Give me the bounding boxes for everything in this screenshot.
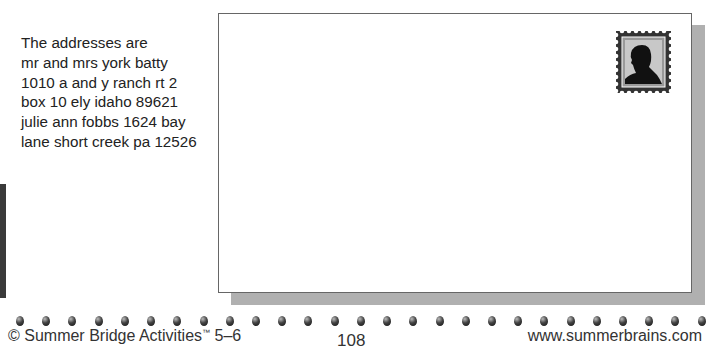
address-line: box 10 ely idaho 89621 [21,92,221,112]
dot [121,316,129,326]
dot [173,316,181,326]
address-instructions: The addresses are mr and mrs york batty … [21,33,221,152]
address-line: 1010 a and y ranch rt 2 [21,73,221,93]
dot [567,316,575,326]
dot [462,316,470,326]
grade-range: 5–6 [210,327,241,344]
address-line: lane short creek pa 12526 [21,132,221,152]
dot [383,316,391,326]
address-line: The addresses are [21,33,221,53]
dot [409,316,417,326]
dot [252,316,260,326]
dot [514,316,522,326]
dot [619,316,627,326]
dot [331,316,339,326]
dot [488,316,496,326]
dot [16,316,24,326]
dot [436,316,444,326]
dot [200,316,208,326]
footer-copyright: © Summer Bridge Activities™ 5–6 [8,327,241,345]
address-line: julie ann fobbs 1624 bay [21,112,221,132]
dot [147,316,155,326]
trademark-symbol: ™ [202,328,210,337]
address-line: mr and mrs york batty [21,53,221,73]
page-number: 108 [337,331,365,351]
dot [593,316,601,326]
page-footer: © Summer Bridge Activities™ 5–6 108 www.… [0,327,714,351]
postage-stamp-icon [612,27,675,97]
dot [540,316,548,326]
dot [698,316,706,326]
dot [645,316,653,326]
copyright-text: © Summer Bridge Activities [8,327,202,344]
dot [357,316,365,326]
dot [95,316,103,326]
website-link[interactable]: www.summerbrains.com [528,327,702,345]
dot [42,316,50,326]
dot [226,316,234,326]
dot [304,316,312,326]
page-edge-tab [0,184,6,298]
dot [278,316,286,326]
dot [68,316,76,326]
dot [671,316,679,326]
